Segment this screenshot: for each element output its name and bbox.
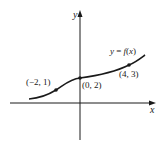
curve-label-eq: = bbox=[114, 46, 124, 56]
point-neg2-1 bbox=[54, 88, 58, 92]
graph-canvas: y x y = f(x) (−2, 1) (0, 2) (4, 3) bbox=[0, 0, 159, 145]
y-axis-label: y bbox=[72, 9, 78, 20]
y-axis-arrow-icon bbox=[78, 10, 83, 17]
function-graph: y x y = f(x) (−2, 1) (0, 2) (4, 3) bbox=[0, 0, 159, 145]
point-label-neg2-1: (−2, 1) bbox=[26, 77, 51, 87]
point-4-3 bbox=[127, 63, 131, 67]
x-axis-label: x bbox=[149, 104, 155, 115]
point-label-0-2: (0, 2) bbox=[82, 80, 102, 90]
curve-label: y = f(x) bbox=[109, 46, 136, 56]
point-label-4-3: (4, 3) bbox=[119, 69, 139, 79]
curve-label-close: ) bbox=[133, 46, 136, 56]
